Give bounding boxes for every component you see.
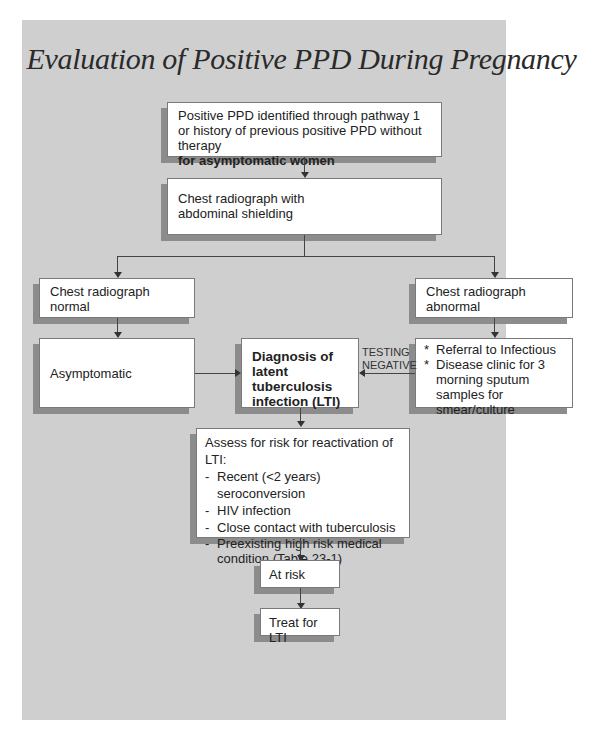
- node-normal-line1: Chest radiograph: [50, 284, 188, 299]
- node-treat-lti: Treat for LTI: [260, 608, 340, 636]
- referral-item: Disease clinic for 3 morning sputum samp…: [424, 357, 566, 417]
- node-diagnosis-line3: infection (LTI): [252, 394, 352, 409]
- node-at-risk: At risk: [260, 560, 340, 588]
- edge-label-line1: TESTING: [362, 346, 417, 359]
- node-radiograph-normal: Chest radiograph normal: [39, 278, 195, 318]
- assess-heading: Assess for risk for reactivation of LTI:: [205, 434, 407, 468]
- arrow-down-icon: [297, 421, 305, 427]
- node-abnormal-line1: Chest radiograph: [426, 284, 566, 299]
- node-positive-ppd-line2: or history of previous positive PPD with…: [178, 123, 435, 153]
- risk-item: HIV infection: [205, 502, 407, 519]
- edge-label-line2: NEGATIVE: [362, 359, 417, 372]
- referral-list: Referral to Infectious Disease clinic fo…: [424, 342, 566, 417]
- edge-label-testing-negative: TESTING NEGATIVE: [362, 346, 417, 372]
- node-referral: Referral to Infectious Disease clinic fo…: [415, 338, 573, 408]
- connector-line: [365, 373, 415, 374]
- node-asymptomatic: Asymptomatic: [39, 338, 195, 408]
- node-assess-risk: Assess for risk for reactivation of LTI:…: [196, 428, 410, 538]
- risk-item: Close contact with tuberculosis: [205, 519, 407, 536]
- node-normal-line2: normal: [50, 299, 188, 314]
- node-at-risk-label: At risk: [269, 567, 333, 582]
- node-abnormal-line2: abnormal: [426, 299, 566, 314]
- node-diagnosis-line2: tuberculosis: [252, 379, 352, 394]
- node-xray-line2: abdominal shielding: [178, 206, 435, 221]
- node-positive-ppd-line3: for asymptomatic women: [178, 153, 435, 168]
- connector-line: [195, 373, 235, 374]
- node-diagnosis-lti: Diagnosis of latent tuberculosis infecti…: [241, 338, 359, 408]
- connector-line: [304, 235, 305, 257]
- risk-item: Recent (<2 years) seroconversion: [205, 468, 407, 502]
- arrow-right-icon: [235, 369, 241, 377]
- node-xray-line1: Chest radiograph with: [178, 191, 435, 206]
- node-positive-ppd: Positive PPD identified through pathway …: [167, 102, 442, 157]
- diagram-title: Evaluation of Positive PPD During Pregna…: [0, 42, 603, 76]
- node-diagnosis-line1: Diagnosis of latent: [252, 349, 352, 379]
- connector-line: [117, 256, 495, 257]
- node-chest-radiograph-shielding: Chest radiograph with abdominal shieldin…: [167, 178, 442, 235]
- node-radiograph-abnormal: Chest radiograph abnormal: [415, 278, 573, 318]
- node-treat-label: Treat for LTI: [269, 615, 333, 645]
- node-asymptomatic-label: Asymptomatic: [50, 366, 188, 381]
- referral-item: Referral to Infectious: [424, 342, 566, 357]
- assess-risk-list: Recent (<2 years) seroconversion HIV inf…: [205, 468, 407, 566]
- node-positive-ppd-line1: Positive PPD identified through pathway …: [178, 108, 435, 123]
